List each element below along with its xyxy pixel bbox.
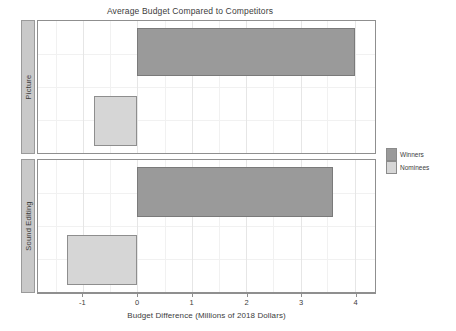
- bar-picture-winners: [137, 28, 354, 77]
- x-tick: [192, 293, 193, 297]
- bar-sound-editing-winners: [137, 167, 332, 217]
- legend-item-nominees: Nominees: [386, 161, 454, 174]
- legend-swatch-winners-icon: [386, 148, 397, 161]
- facet-strip-sound-editing: Sound Editing: [21, 159, 35, 293]
- plot-area-sound-editing: [37, 159, 376, 293]
- gridline-h-minor: [38, 226, 375, 227]
- facet-strip-label-picture: Picture: [24, 75, 33, 100]
- facet-panel-picture: Picture: [21, 20, 376, 154]
- bar-picture-nominees: [94, 96, 137, 146]
- x-tick-label: 3: [299, 298, 303, 307]
- legend-item-winners: Winners: [386, 148, 454, 161]
- facet-panel-sound-editing: Sound Editing: [21, 159, 376, 293]
- x-tick-label: 2: [244, 298, 248, 307]
- legend-swatch-nominees-icon: [386, 161, 397, 174]
- x-tick: [356, 293, 357, 297]
- gridline-h-minor: [38, 87, 375, 88]
- chart-figure: Average Budget Compared to Competitors P…: [0, 0, 456, 331]
- x-tick: [137, 293, 138, 297]
- gridline-v-minor: [56, 21, 57, 153]
- facet-strip-picture: Picture: [21, 20, 35, 154]
- bar-sound-editing-nominees: [67, 235, 137, 285]
- x-axis: -1 0 1 2 3 4 Budget Difference (Millions…: [37, 293, 376, 331]
- gridline-v-major: [355, 160, 356, 292]
- plot-area-picture: [37, 20, 376, 154]
- x-tick: [301, 293, 302, 297]
- x-tick-label: -1: [79, 298, 86, 307]
- x-tick: [247, 293, 248, 297]
- legend: Winners Nominees: [386, 148, 454, 174]
- facet-strip-label-sound-editing: Sound Editing: [24, 201, 33, 250]
- gridline-v-major: [83, 21, 84, 153]
- x-tick-label: 4: [354, 298, 358, 307]
- x-tick: [82, 293, 83, 297]
- legend-label-nominees: Nominees: [400, 164, 429, 171]
- gridline-h-minor: [38, 120, 375, 121]
- x-axis-line: [37, 293, 376, 294]
- gridline-v-minor: [56, 160, 57, 292]
- legend-label-winners: Winners: [400, 151, 424, 158]
- x-tick-label: 0: [135, 298, 139, 307]
- chart-title: Average Budget Compared to Competitors: [0, 6, 380, 16]
- x-tick-label: 1: [189, 298, 193, 307]
- gridline-v-major: [355, 21, 356, 153]
- x-axis-label: Budget Difference (Millions of 2018 Doll…: [37, 311, 376, 320]
